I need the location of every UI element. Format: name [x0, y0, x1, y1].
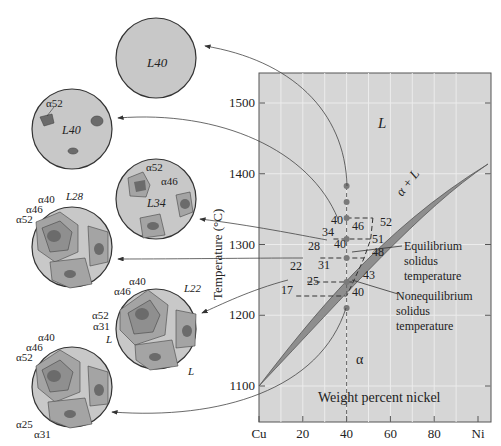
m1-label-0: L40	[146, 55, 168, 70]
tie-line-label: 34	[322, 225, 334, 239]
y-tick-label: 1400	[229, 166, 255, 181]
m6-label-4: α31	[34, 428, 51, 440]
tie-line-label: 52	[380, 215, 392, 229]
m5-label-4: L	[105, 333, 112, 345]
m5-label-1: α46	[114, 285, 131, 297]
eq-line-3: temperature	[404, 269, 461, 283]
cooling-point	[344, 215, 350, 221]
eq-line-2: solidus	[404, 254, 438, 268]
m4-label-3: L28	[65, 190, 84, 202]
liquid-region-label: L	[377, 115, 386, 131]
m3-label-1: α46	[161, 175, 178, 187]
m2-label-1: L40	[61, 123, 81, 137]
microstructure-3: α52 α46 L34	[116, 159, 196, 239]
microstructure-6: α40 α46 α52 α25 α31	[16, 331, 112, 440]
x-tick-label: 40	[340, 426, 353, 441]
tie-line-label: 25	[307, 274, 319, 288]
m5-label-5: L22	[183, 282, 202, 294]
phase-diagram: 11001200130014001500Cu20406080Ni 4046523…	[0, 0, 501, 446]
m6-label-3: α25	[16, 418, 33, 430]
y-tick-label: 1300	[229, 237, 255, 252]
cooling-point	[344, 255, 350, 261]
neq-line-2: solidus	[396, 304, 430, 318]
tie-line-label: 46	[352, 219, 364, 233]
tie-line-label: 40	[352, 285, 364, 299]
y-tick-label: 1500	[229, 95, 255, 110]
plot-area: 11001200130014001500Cu20406080Ni 4046523…	[210, 73, 491, 441]
cooling-point	[344, 279, 350, 285]
microstructure-1: L40	[116, 18, 196, 98]
neq-line-1: Nonequilibrium	[396, 289, 473, 303]
neq-line-3: temperature	[396, 319, 453, 333]
m3-label-0: α52	[146, 161, 163, 173]
m5-label-0: α40	[129, 275, 146, 287]
m6-label-2: α52	[16, 351, 33, 363]
microstructure-4: α40 α46 α52 L28	[16, 190, 112, 288]
cooling-point	[344, 305, 350, 311]
microstructure-2: α52 L40	[32, 89, 112, 169]
x-tick-label: Cu	[251, 426, 267, 441]
microstructure-5: α40 α46 α52 α31 L L22 L	[92, 275, 202, 377]
eq-line-1: Equilibrium	[404, 239, 463, 253]
m2-label-0: α52	[46, 97, 63, 109]
tie-line-label: 51	[372, 232, 384, 246]
x-tick-label: 80	[428, 426, 441, 441]
x-tick-label: Ni	[472, 426, 485, 441]
tie-line-label: 43	[363, 268, 375, 282]
tie-line-label: 40	[334, 237, 346, 251]
tie-line-label: 28	[308, 239, 320, 253]
x-tick-label: 60	[384, 426, 397, 441]
m4-label-2: α52	[16, 213, 33, 225]
y-tick-label: 1100	[229, 378, 255, 393]
x-tick-label: 20	[296, 426, 309, 441]
solid-region-label: α	[356, 352, 364, 367]
tie-line-label: 17	[281, 283, 293, 297]
m3-label-2: L34	[146, 196, 166, 210]
x-axis-label: Weight percent nickel	[318, 390, 441, 405]
cooling-point	[344, 199, 350, 205]
tie-line-label: 48	[372, 245, 384, 259]
m5-label-3: α31	[93, 320, 110, 332]
tie-line-label: 31	[318, 258, 330, 272]
y-tick-label: 1200	[229, 307, 255, 322]
m5-label-6: L	[187, 365, 194, 377]
tie-line-label: 22	[290, 259, 302, 273]
